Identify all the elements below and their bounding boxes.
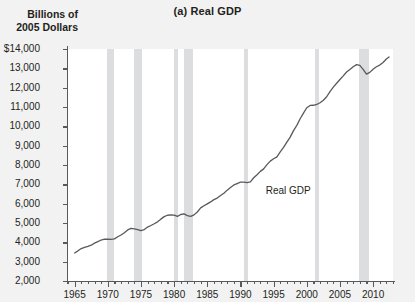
y-axis-label: Billions of2005 Dollars (4, 8, 78, 34)
x-tick-label: 1995 (262, 289, 284, 300)
x-tick-major (307, 281, 308, 287)
x-tick-major (174, 281, 175, 287)
x-tick-minor (393, 281, 394, 284)
x-tick-minor (254, 281, 255, 284)
x-tick-minor (247, 281, 248, 284)
x-tick-minor (68, 281, 69, 284)
x-tick-major (340, 281, 341, 287)
y-tick-label: $14,000 (0, 43, 40, 54)
x-tick-minor (95, 281, 96, 284)
y-tick-label: 2,000 (0, 275, 40, 286)
x-tick-minor (287, 281, 288, 284)
x-tick-major (373, 281, 374, 287)
x-tick-minor (214, 281, 215, 284)
x-tick-minor (353, 281, 354, 284)
x-tick-label: 1970 (97, 289, 119, 300)
x-tick-minor (114, 281, 115, 284)
x-tick-minor (187, 281, 188, 284)
x-tick-label: 1965 (64, 289, 86, 300)
y-tick-label: 8,000 (0, 159, 40, 170)
x-tick-major (207, 281, 208, 287)
x-tick-minor (121, 281, 122, 284)
x-tick-minor (300, 281, 301, 284)
x-tick-minor (148, 281, 149, 284)
x-tick-label: 1990 (229, 289, 251, 300)
x-tick-label: 1985 (196, 289, 218, 300)
x-tick-minor (386, 281, 387, 284)
series-annotation-real-gdp: Real GDP (266, 185, 311, 196)
x-tick-minor (227, 281, 228, 284)
x-tick-minor (360, 281, 361, 284)
x-tick-major (240, 281, 241, 287)
x-tick-label: 2005 (329, 289, 351, 300)
x-tick-minor (234, 281, 235, 284)
x-tick-minor (267, 281, 268, 284)
y-tick-label: 9,000 (0, 139, 40, 150)
x-tick-minor (134, 281, 135, 284)
y-tick-label: 6,000 (0, 197, 40, 208)
y-tick-label: 11,000 (0, 101, 40, 112)
x-tick-minor (333, 281, 334, 284)
x-tick-minor (101, 281, 102, 284)
x-tick-minor (320, 281, 321, 284)
x-tick-minor (347, 281, 348, 284)
x-tick-minor (194, 281, 195, 284)
x-tick-major (75, 281, 76, 287)
x-tick-minor (88, 281, 89, 284)
y-tick-label: 13,000 (0, 62, 40, 73)
x-tick-label: 2000 (296, 289, 318, 300)
y-tick-label: 5,000 (0, 217, 40, 228)
x-tick-major (274, 281, 275, 287)
x-tick-minor (260, 281, 261, 284)
x-tick-minor (201, 281, 202, 284)
x-tick-minor (128, 281, 129, 284)
x-tick-minor (161, 281, 162, 284)
x-tick-minor (294, 281, 295, 284)
y-tick-label: 10,000 (0, 120, 40, 131)
y-tick-label: 4,000 (0, 236, 40, 247)
x-tick-minor (154, 281, 155, 284)
x-tick-minor (380, 281, 381, 284)
x-tick-minor (181, 281, 182, 284)
x-tick-label: 2010 (362, 289, 384, 300)
x-tick-minor (327, 281, 328, 284)
x-tick-label: 1980 (163, 289, 185, 300)
x-tick-major (108, 281, 109, 287)
x-tick-minor (221, 281, 222, 284)
y-tick-label: 12,000 (0, 81, 40, 92)
x-tick-minor (366, 281, 367, 284)
x-tick-minor (167, 281, 168, 284)
x-tick-minor (313, 281, 314, 284)
x-tick-minor (280, 281, 281, 284)
plot-area: 2,0003,0004,0005,0006,0007,0008,0009,000… (68, 49, 393, 281)
x-tick-label: 1975 (130, 289, 152, 300)
series-line-real-gdp (68, 49, 393, 281)
y-tick-label: 3,000 (0, 255, 40, 266)
x-tick-major (141, 281, 142, 287)
figure-real-gdp: (a) Real GDP Billions of2005 Dollars 2,0… (0, 0, 415, 302)
y-tick-label: 7,000 (0, 178, 40, 189)
x-tick-minor (81, 281, 82, 284)
